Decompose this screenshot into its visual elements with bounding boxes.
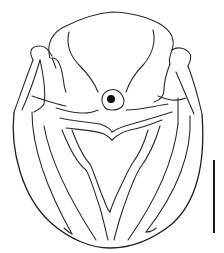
scutellum-pit bbox=[102, 89, 124, 110]
abdomen-outline bbox=[13, 112, 203, 248]
median-v-ridge bbox=[62, 126, 160, 240]
head-dome bbox=[49, 12, 173, 92]
right-lateral-lobe bbox=[154, 48, 202, 124]
illustration-figure: dorsal view line drawing of insect body bbox=[0, 0, 224, 253]
left-lateral-lobe bbox=[14, 46, 66, 112]
